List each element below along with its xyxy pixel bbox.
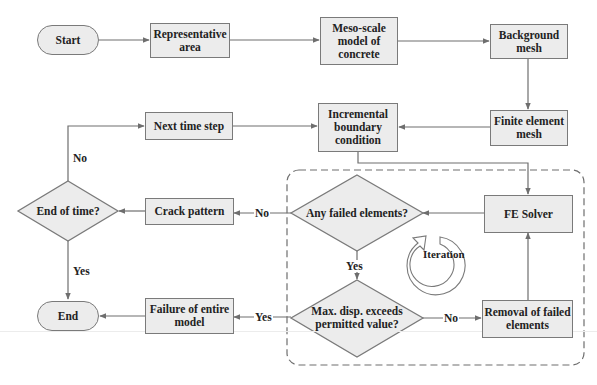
end-node: End (37, 301, 99, 331)
label-any-failed-no: No (254, 207, 270, 219)
start-node: Start (37, 25, 99, 55)
failure-entire-node: Failure of entire model (145, 298, 234, 334)
next-time-step-node: Next time step (145, 112, 233, 140)
end-of-time-decision: End of time? (22, 198, 114, 224)
label-end-of-time-no: No (72, 152, 88, 164)
fe-solver-node: FE Solver (484, 195, 573, 233)
meso-scale-model-node: Meso-scale model of concrete (320, 17, 398, 65)
background-mesh-node: Background mesh (490, 24, 568, 59)
crack-pattern-node: Crack pattern (145, 198, 234, 225)
label-max-disp-no: No (443, 312, 459, 324)
finite-element-mesh-node: Finite element mesh (490, 110, 568, 146)
iteration-cycle-icon (407, 236, 465, 295)
iteration-label: Iteration (422, 248, 466, 260)
incremental-boundary-node: Incremental boundary condition (318, 103, 398, 152)
representative-area-node: Representative area (150, 23, 230, 58)
edge-incremental-fesolver (358, 152, 528, 194)
label-any-failed-yes: Yes (345, 260, 364, 272)
label-max-disp-yes: Yes (254, 311, 273, 323)
any-failed-decision: Any failed elements? (296, 200, 418, 226)
label-end-of-time-yes: Yes (72, 265, 91, 277)
removal-failed-node: Removal of failed elements (482, 300, 573, 338)
max-disp-decision: Max. disp. exceeds permitted value? (306, 304, 408, 332)
